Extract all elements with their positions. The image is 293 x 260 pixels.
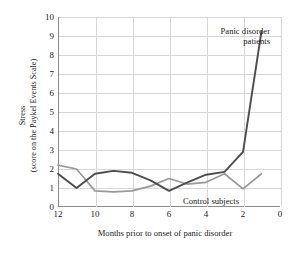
panic-annotation-line1: Panic disorder [186, 26, 270, 36]
panic-annotation-line2: patients [186, 36, 270, 46]
panic-disorder-annotation: Panic disorder patients [186, 26, 270, 46]
control-subjects-annotation: Control subjects [183, 196, 279, 206]
stress-line-chart: Stress (score on the Paykel Events Scale… [0, 0, 293, 260]
panic-disorder-patients-line [58, 31, 262, 191]
